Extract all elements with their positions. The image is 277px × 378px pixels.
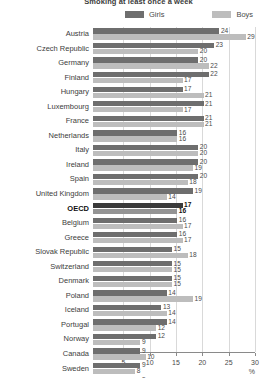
- legend-swatch-boys: [212, 11, 231, 18]
- bar-girls[interactable]: [93, 232, 177, 237]
- bar-girls[interactable]: [93, 290, 167, 295]
- row-bars: 2022: [93, 56, 273, 71]
- bar-boys[interactable]: [93, 122, 204, 127]
- bar-value-girls: 9: [142, 348, 146, 354]
- bar-boys[interactable]: [93, 253, 188, 258]
- bar-boys[interactable]: [93, 34, 246, 39]
- bar-value-boys: 21: [205, 121, 212, 127]
- bar-boys[interactable]: [93, 369, 135, 374]
- bar-girls[interactable]: [93, 43, 214, 48]
- row-bars: 2429: [93, 27, 273, 42]
- chart-row: Finland2217: [0, 71, 277, 86]
- category-label: Iceland: [0, 303, 93, 318]
- bar-boys[interactable]: [93, 93, 204, 98]
- category-label: Denmark: [0, 274, 93, 289]
- bar-boys[interactable]: [93, 354, 146, 359]
- bar-boys[interactable]: [93, 340, 140, 345]
- chart-row: Norway129: [0, 332, 277, 347]
- bar-girls[interactable]: [93, 57, 198, 62]
- bar-value-boys: 29: [247, 34, 254, 40]
- category-label: Slovak Republic: [0, 245, 93, 260]
- bar-boys[interactable]: [93, 63, 209, 68]
- bar-boys[interactable]: [93, 238, 183, 243]
- row-bars: 1314: [93, 303, 273, 318]
- bar-girls[interactable]: [93, 130, 177, 135]
- bar-boys[interactable]: [93, 180, 188, 185]
- bar-boys[interactable]: [93, 311, 167, 316]
- bar-girls[interactable]: [93, 203, 183, 208]
- bar-girls[interactable]: [93, 72, 209, 77]
- bar-girls[interactable]: [93, 116, 204, 121]
- bar-girls[interactable]: [93, 261, 172, 266]
- bar-boys[interactable]: [93, 209, 177, 214]
- row-bars: 1518: [93, 245, 273, 260]
- bar-girls[interactable]: [93, 319, 167, 324]
- row-bars: 1617: [93, 216, 273, 231]
- chart-row: Poland1419: [0, 289, 277, 304]
- bar-value-boys: 16: [179, 208, 186, 214]
- bar-boys[interactable]: [93, 296, 193, 301]
- bar-girls[interactable]: [93, 188, 193, 193]
- bar-boys[interactable]: [93, 136, 177, 141]
- bar-girls[interactable]: [93, 87, 183, 92]
- chart-legend: Girls Boys: [95, 10, 277, 19]
- bar-value-boys: 16: [179, 136, 186, 142]
- bar-girls[interactable]: [93, 174, 198, 179]
- chart-page: Smoking at least once a week Girls Boys …: [0, 0, 277, 378]
- category-label: Belgium: [0, 216, 93, 231]
- row-bars: 1616: [93, 129, 273, 144]
- category-label: OECD: [0, 202, 93, 217]
- bar-boys[interactable]: [93, 49, 198, 54]
- legend-swatch-girls: [125, 11, 144, 18]
- legend-item-boys[interactable]: Boys: [212, 10, 253, 19]
- bar-girls[interactable]: [93, 159, 198, 164]
- bar-girls[interactable]: [93, 145, 198, 150]
- bar-girls[interactable]: [93, 218, 177, 223]
- bar-boys[interactable]: [93, 282, 172, 287]
- bar-boys[interactable]: [93, 78, 183, 83]
- row-bars: 1412: [93, 318, 273, 333]
- bar-girls[interactable]: [93, 276, 172, 281]
- legend-item-girls[interactable]: Girls: [125, 10, 164, 19]
- bar-value-girls: 9: [142, 362, 146, 368]
- bar-value-girls: 21: [205, 101, 212, 107]
- bar-girls[interactable]: [93, 305, 161, 310]
- bar-value-boys: 20: [200, 150, 207, 156]
- bar-boys[interactable]: [93, 151, 198, 156]
- bar-boys[interactable]: [93, 267, 172, 272]
- chart-row: Netherlands1616: [0, 129, 277, 144]
- category-label: Switzerland: [0, 260, 93, 275]
- chart-row: Hungary1721: [0, 85, 277, 100]
- row-bars: 2117: [93, 100, 273, 115]
- row-bars: 1716: [93, 202, 273, 217]
- bar-girls[interactable]: [93, 247, 172, 252]
- chart-row: Spain2018: [0, 172, 277, 187]
- bar-girls[interactable]: [93, 334, 156, 339]
- bar-boys[interactable]: [93, 165, 193, 170]
- chart-title: Smoking at least once a week: [0, 0, 277, 6]
- category-label: Netherlands: [0, 129, 93, 144]
- chart-row: Sweden98: [0, 362, 277, 377]
- bar-value-boys: 8: [137, 368, 141, 374]
- bar-value-boys: 17: [184, 77, 191, 83]
- chart-row: Luxembourg2117: [0, 100, 277, 115]
- bar-value-girls: 20: [200, 173, 207, 179]
- bar-value-girls: 14: [168, 290, 175, 296]
- chart-row: France2121: [0, 114, 277, 129]
- category-label: Norway: [0, 332, 93, 347]
- bar-value-boys: 17: [184, 107, 191, 113]
- bar-value-girls: 24: [221, 28, 228, 34]
- bar-value-boys: 20: [200, 48, 207, 54]
- bar-girls[interactable]: [93, 28, 219, 33]
- chart-row: Switzerland1515: [0, 260, 277, 275]
- bar-boys[interactable]: [93, 224, 183, 229]
- bar-boys[interactable]: [93, 107, 183, 112]
- bar-value-girls: 22: [210, 71, 217, 77]
- chart-row: Greece1617: [0, 231, 277, 246]
- bar-value-boys: 17: [184, 223, 191, 229]
- bar-boys[interactable]: [93, 325, 156, 330]
- bar-girls[interactable]: [93, 363, 140, 368]
- bar-girls[interactable]: [93, 348, 140, 353]
- bar-boys[interactable]: [93, 194, 167, 199]
- category-label: Germany: [0, 56, 93, 71]
